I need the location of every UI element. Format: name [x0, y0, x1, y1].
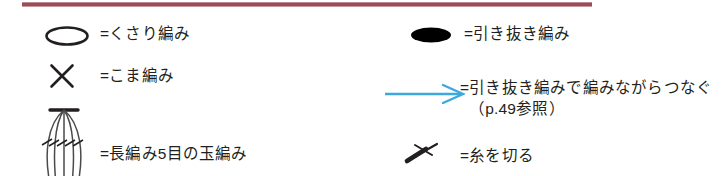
join-label-reference: （p.49参照） — [460, 99, 712, 120]
slip-stitch-symbol — [409, 24, 453, 46]
bobble-stitch-symbol — [38, 104, 90, 176]
single-crochet-symbol — [48, 62, 76, 90]
chain-stitch-label: =くさり編み — [100, 24, 190, 45]
slip-stitch-label: =引き抜き編み — [464, 24, 570, 45]
legend-column-left: =くさり編み =こま編み — [0, 0, 364, 176]
chain-stitch-symbol — [44, 24, 90, 48]
join-label-main: =引き抜き編みで編みながらつなぐ — [460, 79, 712, 96]
join-while-crocheting-label: =引き抜き編みで編みながらつなぐ （p.49参照） — [460, 78, 712, 120]
bobble-stitch-label: =長編み5目の玉編み — [100, 144, 248, 165]
blue-arrow-right-icon — [383, 82, 467, 106]
cut-yarn-symbol — [405, 140, 441, 164]
cut-yarn-label: =糸を切る — [460, 146, 534, 167]
single-crochet-label: =こま編み — [100, 66, 174, 87]
stitch-symbol-legend: =くさり編み =こま編み — [0, 0, 727, 176]
legend-column-right: =引き抜き編み =引き抜き編みで編みながらつなぐ （p.49参照） — [364, 0, 727, 176]
